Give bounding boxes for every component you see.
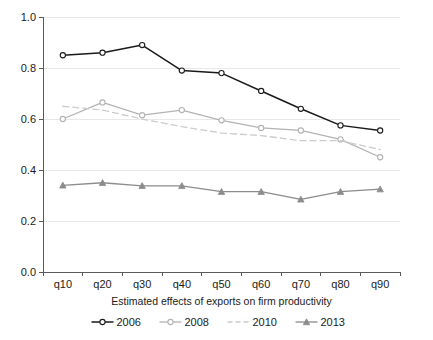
series-line-2010 bbox=[63, 106, 380, 149]
legend-item-2010[interactable]: 2010 bbox=[228, 316, 277, 328]
legend-item-2013[interactable]: 2013 bbox=[296, 316, 345, 328]
line-chart: 0.00.20.40.60.81.0q10q20q30q40q50q60q70q… bbox=[0, 0, 433, 340]
legend-label-2013: 2013 bbox=[321, 316, 345, 328]
data-point-marker bbox=[179, 107, 184, 112]
legend-item-2006[interactable]: 2006 bbox=[92, 316, 141, 328]
y-tick-label: 0.8 bbox=[21, 62, 36, 74]
series-2008 bbox=[60, 100, 383, 160]
data-point-marker bbox=[259, 125, 264, 130]
series-line-2008 bbox=[63, 102, 380, 157]
y-tick-label: 0.6 bbox=[21, 113, 36, 125]
x-tick-label-q70: q70 bbox=[292, 278, 310, 290]
y-tick-label: 0.0 bbox=[21, 266, 36, 278]
data-point-marker bbox=[100, 319, 105, 324]
x-tick-label-q30: q30 bbox=[133, 278, 151, 290]
y-tick-label: 0.2 bbox=[21, 215, 36, 227]
x-axis-title: Estimated effects of exports on firm pro… bbox=[111, 295, 332, 307]
data-point-marker bbox=[219, 71, 224, 76]
data-point-marker bbox=[259, 88, 264, 93]
legend-label-2008: 2008 bbox=[185, 316, 209, 328]
data-point-marker bbox=[60, 116, 65, 121]
x-tick-label-q20: q20 bbox=[93, 278, 111, 290]
x-tick-label-q90: q90 bbox=[371, 278, 389, 290]
data-point-marker bbox=[378, 128, 383, 133]
x-tick-label-q80: q80 bbox=[331, 278, 349, 290]
data-point-marker bbox=[179, 68, 184, 73]
data-point-marker bbox=[219, 118, 224, 123]
data-point-marker bbox=[140, 42, 145, 47]
legend-item-2008[interactable]: 2008 bbox=[160, 316, 209, 328]
chart-container: 0.00.20.40.60.81.0q10q20q30q40q50q60q70q… bbox=[0, 0, 433, 340]
series-2013 bbox=[60, 180, 384, 202]
y-tick-label: 0.4 bbox=[21, 164, 36, 176]
x-tick-label-q50: q50 bbox=[212, 278, 230, 290]
data-point-marker bbox=[168, 319, 173, 324]
data-point-marker bbox=[100, 100, 105, 105]
data-point-marker bbox=[60, 53, 65, 58]
y-tick-label: 1.0 bbox=[21, 11, 36, 23]
x-tick-label-q40: q40 bbox=[173, 278, 191, 290]
legend-label-2006: 2006 bbox=[117, 316, 141, 328]
data-point-marker bbox=[100, 50, 105, 55]
legend-label-2010: 2010 bbox=[253, 316, 277, 328]
data-point-marker bbox=[140, 113, 145, 118]
x-tick-label-q60: q60 bbox=[252, 278, 270, 290]
data-point-marker bbox=[378, 155, 383, 160]
series-2010 bbox=[63, 106, 380, 149]
data-point-marker bbox=[298, 106, 303, 111]
data-point-marker bbox=[298, 128, 303, 133]
x-tick-label-q10: q10 bbox=[54, 278, 72, 290]
data-point-marker bbox=[338, 123, 343, 128]
